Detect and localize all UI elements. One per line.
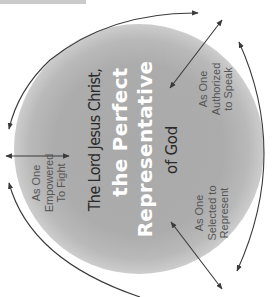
title-line-1: The Lord Jesus Christ,	[85, 69, 104, 212]
role-speak-label: As One Authorized to Speak	[197, 63, 235, 116]
top-left-arc-arrow	[9, 60, 50, 129]
role-represent-label: As One Selected to Represent	[193, 185, 231, 240]
title-line-2: the Perfect	[108, 67, 132, 196]
role-fight-label: As One Empowered To Fight	[30, 154, 68, 213]
title-line-3: Representative	[133, 61, 157, 238]
top-arc-arrow	[50, 13, 198, 60]
bottom-left-arc-arrow	[9, 183, 140, 297]
title-line-4: of God	[163, 126, 181, 174]
right-arc-arrow	[237, 42, 264, 271]
